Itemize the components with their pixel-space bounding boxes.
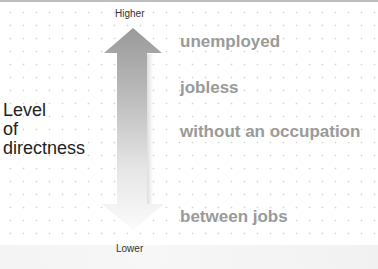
double-arrow-icon bbox=[100, 26, 166, 232]
scale-top-label: Higher bbox=[115, 8, 144, 19]
item-jobless: jobless bbox=[180, 78, 239, 98]
item-unemployed: unemployed bbox=[180, 32, 280, 52]
axis-label: Level of directness bbox=[3, 101, 85, 158]
bottom-strip bbox=[0, 245, 378, 269]
item-without-an-occupation: without an occupation bbox=[180, 122, 360, 142]
axis-label-line: of bbox=[3, 120, 85, 139]
item-between-jobs: between jobs bbox=[180, 207, 288, 227]
axis-label-line: Level bbox=[3, 101, 85, 120]
axis-label-line: directness bbox=[3, 139, 85, 158]
scale-bottom-label: Lower bbox=[116, 243, 143, 254]
